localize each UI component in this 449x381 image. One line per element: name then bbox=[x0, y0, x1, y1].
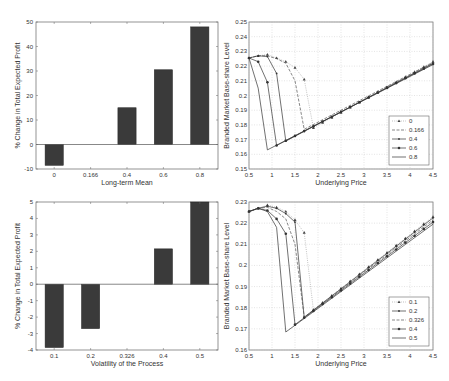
legend-entry: 0.4 bbox=[409, 136, 418, 142]
y-tick-label: 3 bbox=[30, 232, 34, 238]
y-tick-label: 0.19 bbox=[235, 284, 247, 290]
y-tick-label: -4 bbox=[28, 347, 34, 353]
legend-entry: 0.8 bbox=[409, 154, 418, 160]
figure-canvas: 00.1660.40.60.8-1001020304050Long-term M… bbox=[0, 0, 449, 381]
y-tick-label: 0.17 bbox=[235, 326, 247, 332]
chart-base-share-by-volatility: 0.511.522.533.544.50.160.170.180.190.20.… bbox=[223, 199, 438, 368]
x-tick-label: 2 bbox=[316, 353, 320, 359]
chart-base-share-by-mean: 0.511.522.533.544.50.150.160.170.180.190… bbox=[223, 19, 438, 187]
star-marker bbox=[275, 218, 278, 221]
legend-entry: 0.2 bbox=[409, 308, 418, 314]
y-tick-label: -2 bbox=[28, 314, 34, 320]
x-tick-label: 3 bbox=[362, 172, 366, 178]
x-tick-label: 0.2 bbox=[86, 353, 95, 359]
dot-marker bbox=[398, 138, 400, 140]
dot-marker bbox=[386, 252, 388, 254]
y-tick-label: 0.23 bbox=[235, 199, 247, 205]
x-tick-label: 0.6 bbox=[159, 172, 168, 178]
y-tick-label: 0.2 bbox=[239, 93, 248, 99]
x-tick-label: 4.5 bbox=[429, 172, 438, 178]
chart-long-term-mean: 00.1660.40.60.8-1001020304050Long-term M… bbox=[14, 19, 218, 187]
dot-marker bbox=[276, 73, 278, 75]
dot-marker bbox=[294, 221, 296, 223]
y-tick-label: 0.16 bbox=[235, 347, 247, 353]
x-tick-label: 3.5 bbox=[383, 353, 392, 359]
bar bbox=[118, 108, 136, 145]
x-tick-label: 1 bbox=[270, 353, 274, 359]
bar bbox=[154, 70, 172, 145]
x-axis-label: Long-term Mean bbox=[101, 179, 152, 187]
legend: 0.10.20.3260.40.5 bbox=[389, 297, 429, 346]
y-tick-label: 0.21 bbox=[235, 241, 247, 247]
x-tick-label: 0.4 bbox=[123, 172, 132, 178]
star-marker bbox=[423, 228, 426, 231]
legend-entry: 0.5 bbox=[409, 335, 418, 341]
y-tick-label: 0.22 bbox=[235, 220, 247, 226]
chart-volatility: 0.10.20.3260.40.5-4-3-2-1012345Volatilit… bbox=[14, 199, 218, 368]
star-marker bbox=[432, 221, 435, 224]
x-axis-label: Volatility of the Process bbox=[91, 360, 164, 368]
y-axis-label: % Change in Total Expected Profit bbox=[14, 223, 22, 329]
x-tick-label: 2.5 bbox=[337, 172, 346, 178]
star-marker bbox=[398, 328, 401, 331]
legend-entry: 0.1 bbox=[409, 299, 418, 305]
x-tick-label: 0.5 bbox=[245, 353, 254, 359]
x-tick-label: 0 bbox=[53, 172, 57, 178]
bar bbox=[45, 145, 63, 166]
y-axis-label: % Change in Total Expected Profit bbox=[14, 42, 22, 148]
y-tick-label: 4 bbox=[30, 215, 34, 221]
star-marker bbox=[257, 60, 260, 63]
x-tick-label: 2.5 bbox=[337, 353, 346, 359]
x-tick-label: 0.1 bbox=[50, 353, 59, 359]
x-tick-label: 0.166 bbox=[83, 172, 99, 178]
dot-marker bbox=[257, 55, 259, 57]
dot-marker bbox=[267, 205, 269, 207]
x-tick-label: 0.4 bbox=[159, 353, 168, 359]
y-tick-label: 0.24 bbox=[235, 34, 247, 40]
bar bbox=[154, 249, 172, 284]
y-tick-label: 5 bbox=[30, 199, 34, 205]
y-tick-label: 0.21 bbox=[235, 78, 247, 84]
x-tick-label: 3.5 bbox=[383, 172, 392, 178]
y-tick-label: 0.2 bbox=[239, 262, 248, 268]
x-tick-label: 0.5 bbox=[245, 172, 254, 178]
dot-marker bbox=[285, 213, 287, 215]
legend-entry: 0.6 bbox=[409, 145, 418, 151]
dot-marker bbox=[414, 231, 416, 233]
star-marker bbox=[266, 81, 269, 84]
x-tick-label: 0.8 bbox=[196, 172, 205, 178]
y-tick-label: 0 bbox=[30, 142, 34, 148]
dot-marker bbox=[423, 224, 425, 226]
x-tick-label: 4 bbox=[408, 172, 412, 178]
x-tick-label: 1.5 bbox=[291, 353, 300, 359]
bar bbox=[82, 284, 100, 328]
y-tick-label: 0.18 bbox=[235, 305, 247, 311]
dot-marker bbox=[398, 310, 400, 312]
x-tick-label: 2 bbox=[316, 172, 320, 178]
legend-entry: 0.326 bbox=[409, 317, 425, 323]
x-axis-label: Underlying Price bbox=[315, 179, 366, 187]
x-tick-label: 0.5 bbox=[196, 353, 205, 359]
x-axis-label: Underlying Price bbox=[315, 360, 366, 368]
y-tick-label: 0 bbox=[30, 281, 34, 287]
legend: 00.1660.40.60.8 bbox=[389, 116, 429, 165]
y-tick-label: 0.16 bbox=[235, 151, 247, 157]
y-tick-label: 0.25 bbox=[235, 19, 247, 25]
y-tick-label: 0.23 bbox=[235, 48, 247, 54]
x-tick-label: 3 bbox=[362, 353, 366, 359]
y-axis-label: Branded Market Base-share Level bbox=[223, 42, 230, 149]
y-tick-label: -3 bbox=[28, 331, 34, 337]
y-tick-label: 0.15 bbox=[235, 166, 247, 172]
dot-marker bbox=[267, 56, 269, 58]
y-tick-label: 40 bbox=[26, 44, 33, 50]
y-tick-label: -10 bbox=[24, 166, 33, 172]
x-tick-label: 4.5 bbox=[429, 353, 438, 359]
x-tick-label: 0.326 bbox=[119, 353, 135, 359]
legend-entry: 0.4 bbox=[409, 326, 418, 332]
y-tick-label: 20 bbox=[26, 93, 33, 99]
y-tick-label: 0.19 bbox=[235, 107, 247, 113]
y-tick-label: 1 bbox=[30, 265, 34, 271]
y-tick-label: -1 bbox=[28, 298, 34, 304]
legend-entry: 0.166 bbox=[409, 127, 425, 133]
y-tick-label: 50 bbox=[26, 19, 33, 25]
